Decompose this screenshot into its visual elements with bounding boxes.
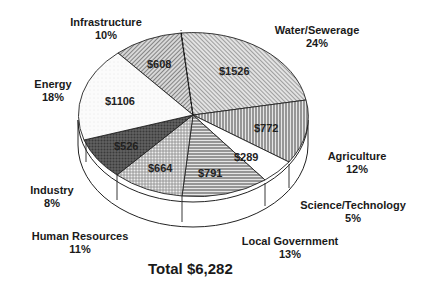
label-science-technology: Science/Technology 5%: [288, 199, 418, 225]
label-local-government: Local Government 13%: [230, 235, 350, 261]
label-industry: Industry 8%: [22, 184, 82, 210]
label-human-resources: Human Resources 11%: [20, 230, 140, 256]
value-hr: $664: [148, 162, 173, 174]
label-agriculture: Agriculture 12%: [312, 150, 402, 176]
value-energy: $1106: [105, 95, 135, 107]
value-agriculture: $772: [254, 122, 278, 134]
label-infrastructure: Infrastructure 10%: [56, 16, 156, 42]
label-water-sewerage: Water/Sewerage 24%: [262, 24, 372, 50]
value-scitech: $289: [234, 151, 258, 163]
pie-slices: [78, 30, 308, 197]
value-water: $1526: [219, 65, 250, 77]
value-localgov: $791: [198, 167, 222, 179]
label-energy: Energy 18%: [28, 78, 78, 104]
value-infrastructure: $608: [147, 58, 171, 70]
total-label: Total $6,282: [148, 260, 233, 277]
value-industry: $526: [114, 140, 138, 152]
